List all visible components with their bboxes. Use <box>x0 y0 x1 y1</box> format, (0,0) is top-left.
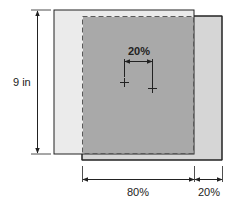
width-main-label: 80% <box>127 187 149 198</box>
shift-label: 20% <box>128 46 150 57</box>
width-offset-label: 20% <box>198 187 220 198</box>
height-label: 9 in <box>13 77 31 88</box>
diagram-canvas <box>0 0 232 209</box>
overlap-area <box>83 17 193 153</box>
